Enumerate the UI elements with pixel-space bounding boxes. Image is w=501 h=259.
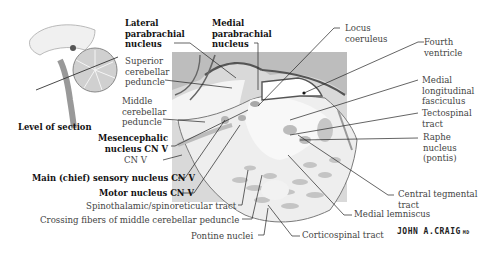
label-line: coeruleus xyxy=(345,34,388,45)
label-line: Medial xyxy=(212,18,272,29)
label-line: Medial xyxy=(422,75,474,86)
pons-section xyxy=(172,52,357,222)
label-line: nucleus CN V xyxy=(98,144,168,155)
label-medial-lemniscus: Medial lemniscus xyxy=(354,209,430,220)
label-tectospinal-tract: Tectospinal tract xyxy=(422,108,472,129)
label-line: Lateral xyxy=(125,18,185,29)
label-line: Raphe xyxy=(423,132,457,143)
label-middle-cerebellar-peduncle: Middle cerebellar peduncle xyxy=(122,96,166,128)
label-line: parabrachial xyxy=(212,29,272,40)
label-raphe-nucleus: Raphe nucleus (pontis) xyxy=(423,132,457,164)
label-line: nucleus xyxy=(212,39,272,50)
label-locus-coeruleus: Locus coeruleus xyxy=(345,23,388,44)
label-pontine-nuclei: Pontine nuclei xyxy=(191,231,253,242)
label-line: nucleus xyxy=(125,39,185,50)
label-line: peduncle xyxy=(122,117,166,128)
signature-suffix: MD xyxy=(463,229,470,235)
label-line: parabrachial xyxy=(125,29,185,40)
label-line: longitudinal xyxy=(422,86,474,97)
label-main-sensory-nucleus: Main (chief) sensory nucleus CN V xyxy=(32,173,195,184)
label-level-of-section: Level of section xyxy=(18,122,91,133)
label-medial-parabrachial-nucleus: Medial parabrachial nucleus xyxy=(212,18,272,50)
label-spinothalamic-tract: Spinothalamic/spinoreticular tract xyxy=(86,201,236,212)
signature-name: JOHN A.CRAIG xyxy=(397,227,461,236)
label-corticospinal-tract: Corticospinal tract xyxy=(302,230,384,241)
label-line: nucleus xyxy=(423,143,457,154)
label-line: cerebellar xyxy=(125,67,169,78)
label-line: tract xyxy=(422,119,472,130)
label-line: peduncle xyxy=(125,77,169,88)
label-line: Locus xyxy=(345,23,388,34)
label-line: cerebellar xyxy=(122,107,166,118)
label-crossing-fibers: Crossing fibers of middle cerebellar ped… xyxy=(40,215,239,226)
label-medial-longitudinal-fasciculus: Medial longitudinal fasciculus xyxy=(422,75,474,107)
label-motor-nucleus: Motor nucleus CN V xyxy=(99,188,194,199)
label-line: Tectospinal xyxy=(422,108,472,119)
label-line: Superior xyxy=(125,56,169,67)
label-central-tegmental-tract: Central tegmental tract xyxy=(398,189,478,210)
label-lateral-parabrachial-nucleus: Lateral parabrachial nucleus xyxy=(125,18,185,50)
label-cn-v: CN V xyxy=(124,155,147,166)
label-mesencephalic-nucleus: Mesencephalic nucleus CN V xyxy=(98,133,168,154)
label-line: Mesencephalic xyxy=(98,133,168,144)
label-fourth-ventricle: Fourth ventricle xyxy=(424,37,462,58)
label-line: (pontis) xyxy=(423,153,457,164)
label-line: ventricle xyxy=(424,48,462,59)
label-superior-cerebellar-peduncle: Superior cerebellar peduncle xyxy=(125,56,169,88)
label-line: Middle xyxy=(122,96,166,107)
midsagittal-brainstem-inset xyxy=(29,25,118,128)
label-line: Central tegmental xyxy=(398,189,478,200)
label-line: fasciculus xyxy=(422,96,474,107)
artist-signature: JOHN A.CRAIGMD xyxy=(397,227,470,236)
label-line: Fourth xyxy=(424,37,462,48)
